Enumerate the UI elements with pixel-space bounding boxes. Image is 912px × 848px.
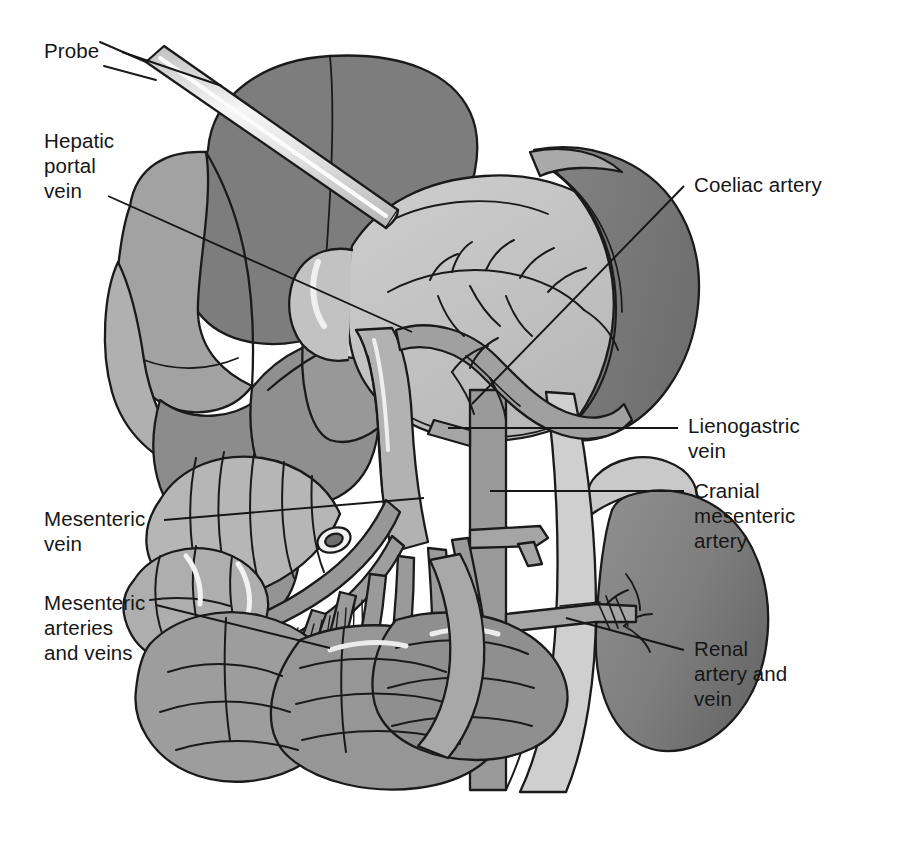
anatomical-figure: Probe Hepatic portal vein Mesenteric vei… [0, 0, 912, 848]
label-mesenteric-arteries-and-veins: Mesenteric arteries and veins [44, 590, 145, 665]
label-probe: Probe [44, 38, 99, 63]
label-mesenteric-vein: Mesenteric vein [44, 506, 145, 556]
label-hepatic-portal-vein: Hepatic portal vein [44, 128, 114, 203]
label-cranial-mesenteric-artery: Cranial mesenteric artery [694, 478, 795, 553]
label-lienogastric-vein: Lienogastric vein [688, 413, 800, 463]
label-renal-artery-and-vein: Renal artery and vein [694, 636, 787, 711]
label-coeliac-artery: Coeliac artery [694, 172, 822, 197]
